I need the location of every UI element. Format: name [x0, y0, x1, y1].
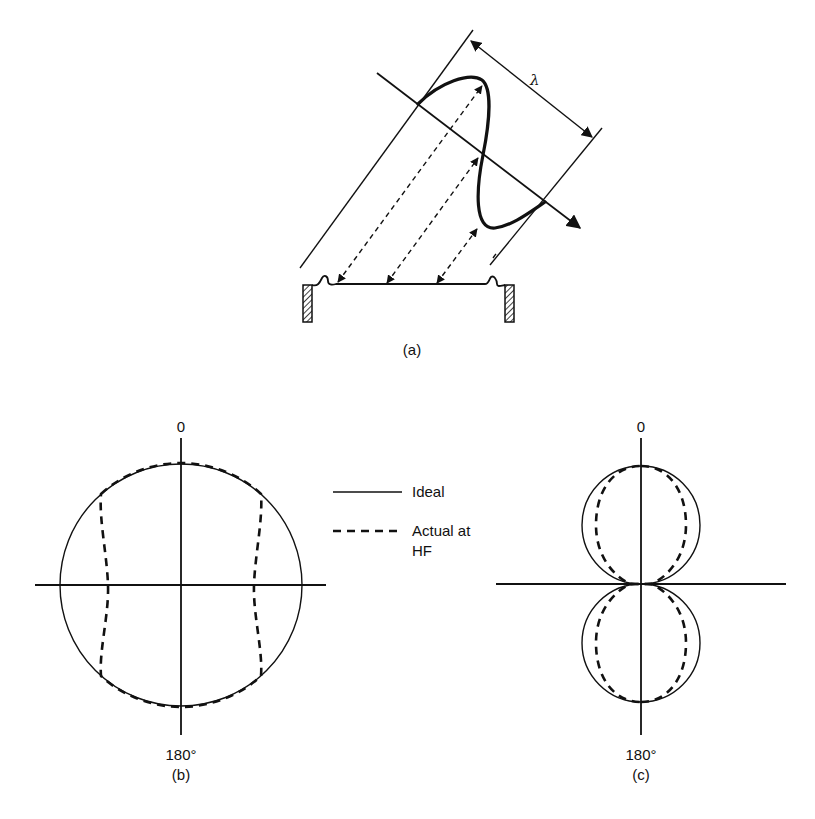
right-boundary-line [490, 128, 602, 265]
left-boundary-line [300, 30, 473, 268]
diaphragm [312, 276, 505, 286]
figure-a: λ (a) [300, 30, 602, 358]
figure-b-label: (b) [172, 766, 190, 783]
pressure-arrow-1 [338, 86, 482, 282]
legend-actual-label-line1: Actual at [412, 522, 471, 539]
pressure-arrow-3 [437, 229, 477, 283]
figure-c-top-angle: 0 [637, 418, 645, 435]
legend-actual-label-line2: HF [412, 542, 432, 559]
microphone-diagram: λ (a) 0 180° (b) Ideal Actual at HF [0, 0, 815, 819]
figure-a-label: (a) [403, 341, 421, 358]
legend: Ideal Actual at HF [333, 483, 471, 559]
legend-ideal-label: Ideal [412, 483, 445, 500]
figure-c-bottom-angle: 180° [625, 746, 656, 763]
pressure-arrow-2 [387, 158, 478, 283]
figure-c: 0 180° (c) [496, 418, 786, 783]
figure-c-label: (c) [632, 766, 650, 783]
housing-right [505, 285, 514, 322]
figure-b: 0 180° (b) [35, 418, 326, 783]
figure-b-bottom-angle: 180° [165, 746, 196, 763]
figure-b-top-angle: 0 [177, 418, 185, 435]
housing-left [303, 285, 312, 322]
wavelength-label: λ [529, 71, 540, 89]
